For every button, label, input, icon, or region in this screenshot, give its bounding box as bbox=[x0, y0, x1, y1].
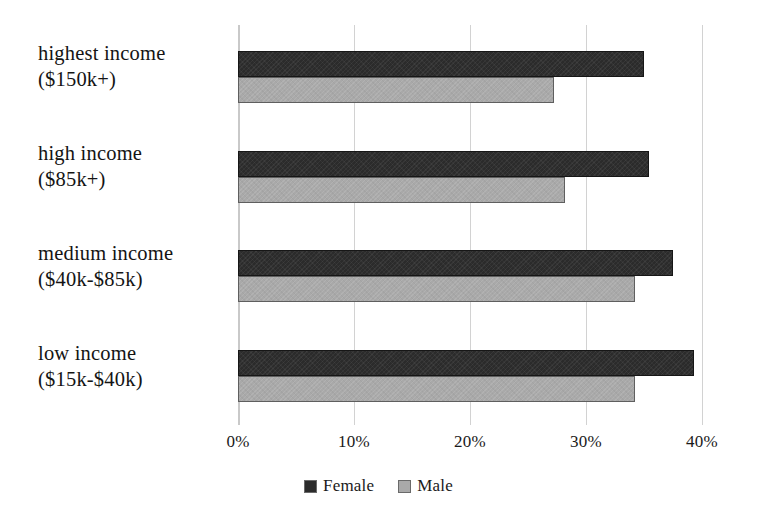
bar-male-0 bbox=[238, 77, 554, 103]
category-label-line2: ($40k-$85k) bbox=[38, 266, 173, 292]
x-tick-label: 10% bbox=[338, 432, 370, 452]
x-tick-label: 0% bbox=[226, 432, 249, 452]
bar-female-1 bbox=[238, 151, 649, 177]
category-label-line1: medium income bbox=[38, 240, 173, 266]
bar-female-0 bbox=[238, 51, 644, 77]
x-tick-label: 30% bbox=[570, 432, 602, 452]
legend-entry-female: Female bbox=[304, 476, 374, 496]
gridline-40pct bbox=[702, 25, 703, 425]
category-label-line1: low income bbox=[38, 340, 143, 366]
category-label-highest-income: highest income ($150k+) bbox=[38, 40, 165, 92]
category-label-high-income: high income ($85k+) bbox=[38, 140, 142, 192]
category-label-line2: ($85k+) bbox=[38, 166, 142, 192]
legend-label-female: Female bbox=[323, 476, 374, 496]
category-label-low-income: low income ($15k-$40k) bbox=[38, 340, 143, 392]
legend: Female Male bbox=[0, 476, 757, 496]
category-label-line1: high income bbox=[38, 140, 142, 166]
legend-entry-male: Male bbox=[398, 476, 453, 496]
category-label-line1: highest income bbox=[38, 40, 165, 66]
bar-female-3 bbox=[238, 350, 694, 376]
bar-male-1 bbox=[238, 177, 565, 203]
bar-female-2 bbox=[238, 250, 673, 276]
x-tick-label: 40% bbox=[686, 432, 718, 452]
legend-swatch-female-icon bbox=[304, 480, 317, 493]
bar-chart: highest income ($150k+) high income ($85… bbox=[0, 0, 757, 518]
legend-swatch-male-icon bbox=[398, 480, 411, 493]
category-label-line2: ($15k-$40k) bbox=[38, 366, 143, 392]
category-label-line2: ($150k+) bbox=[38, 66, 165, 92]
x-tick-label: 20% bbox=[454, 432, 486, 452]
bar-male-3 bbox=[238, 376, 635, 402]
bar-male-2 bbox=[238, 276, 635, 302]
category-label-medium-income: medium income ($40k-$85k) bbox=[38, 240, 173, 292]
legend-label-male: Male bbox=[417, 476, 453, 496]
plot-area bbox=[238, 25, 702, 425]
